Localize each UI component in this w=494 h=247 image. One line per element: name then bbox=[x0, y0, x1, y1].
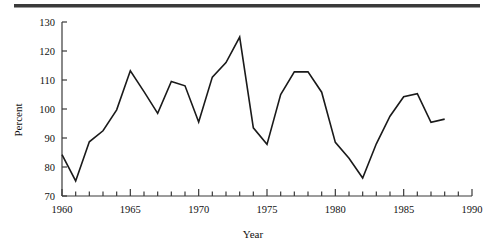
chart-axes bbox=[62, 22, 472, 196]
y-tick-label-70: 70 bbox=[45, 191, 56, 202]
x-tick-label-1990: 1990 bbox=[462, 204, 483, 215]
series-line-percent bbox=[62, 37, 445, 181]
x-tick-label-1965: 1965 bbox=[120, 204, 141, 215]
x-tick-label-1960: 1960 bbox=[52, 204, 73, 215]
x-tick-label-1980: 1980 bbox=[325, 204, 346, 215]
x-tick-label-1975: 1975 bbox=[257, 204, 278, 215]
x-axis-label: Year bbox=[243, 228, 264, 240]
data-series-group bbox=[62, 37, 445, 181]
y-axis-tick-labels: 708090100110120130 bbox=[39, 17, 55, 202]
y-tick-label-80: 80 bbox=[45, 162, 56, 173]
y-tick-label-120: 120 bbox=[39, 46, 55, 57]
y-tick-label-110: 110 bbox=[40, 75, 55, 86]
y-tick-label-100: 100 bbox=[39, 104, 55, 115]
chart-figure: 708090100110120130 196019651970197519801… bbox=[0, 0, 494, 247]
x-axis-tick-labels: 1960196519701975198019851990 bbox=[52, 204, 483, 215]
line-chart-plot: 708090100110120130 196019651970197519801… bbox=[0, 0, 494, 247]
y-axis-label: Percent bbox=[12, 104, 24, 137]
y-tick-label-90: 90 bbox=[45, 133, 56, 144]
x-tick-label-1970: 1970 bbox=[188, 204, 209, 215]
y-tick-label-130: 130 bbox=[39, 17, 55, 28]
x-tick-label-1985: 1985 bbox=[393, 204, 414, 215]
